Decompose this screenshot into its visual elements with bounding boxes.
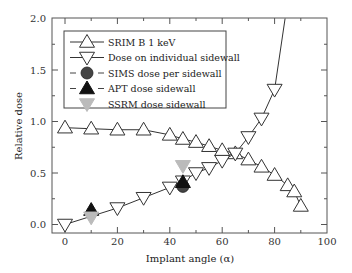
x-tick-label: 60 xyxy=(216,236,229,247)
legend-label: SIMS dose per sidewall xyxy=(108,68,222,79)
data-point xyxy=(110,122,125,135)
y-tick-labels: 0.00.51.01.52.0 xyxy=(30,13,46,230)
data-point xyxy=(254,113,269,126)
chart: 020406080100 0.00.51.01.52.0 SRIM B 1 ke… xyxy=(0,0,352,273)
legend-marker xyxy=(81,67,93,79)
y-axis-label: Relative dose xyxy=(13,92,24,160)
y-tick-label: 2.0 xyxy=(30,13,46,24)
x-tick-label: 40 xyxy=(163,236,176,247)
data-point xyxy=(189,168,204,181)
legend-entry: SRIM B 1 keV xyxy=(70,35,176,48)
data-point xyxy=(84,121,99,134)
x-tick-label: 0 xyxy=(62,236,68,247)
x-axis-label: Implant angle (α) xyxy=(146,253,234,264)
data-point xyxy=(136,192,151,205)
data-point xyxy=(58,219,73,232)
data-point xyxy=(202,163,217,176)
data-point xyxy=(267,168,282,181)
data-point xyxy=(215,155,230,168)
data-point xyxy=(110,203,125,216)
y-tick-label: 1.5 xyxy=(30,65,46,76)
data-point xyxy=(175,161,190,174)
legend: SRIM B 1 keVDose on individual sidewallS… xyxy=(64,31,240,112)
data-point xyxy=(202,139,217,152)
y-tick-label: 0.5 xyxy=(30,168,46,179)
legend-label: SSRM dose sidewall xyxy=(108,99,206,110)
data-point xyxy=(293,198,308,211)
y-tick-label: 0.0 xyxy=(30,219,46,230)
data-point xyxy=(162,182,177,195)
data-point xyxy=(241,132,256,145)
x-tick-labels: 020406080100 xyxy=(62,236,337,247)
x-tick-label: 80 xyxy=(268,236,281,247)
x-tick-label: 100 xyxy=(317,236,336,247)
legend-label: APT dose sidewall xyxy=(107,83,195,94)
data-point xyxy=(136,122,151,135)
y-tick-label: 1.0 xyxy=(30,116,46,127)
data-point xyxy=(267,84,282,97)
x-tick-label: 20 xyxy=(111,236,124,247)
legend-entry: SSRM dose sidewall xyxy=(70,99,206,112)
legend-label: Dose on individual sidewall xyxy=(108,52,240,63)
data-point xyxy=(254,159,269,172)
data-point xyxy=(215,143,230,156)
legend-label: SRIM B 1 keV xyxy=(108,37,176,48)
data-point xyxy=(175,132,190,145)
data-point xyxy=(58,120,73,133)
